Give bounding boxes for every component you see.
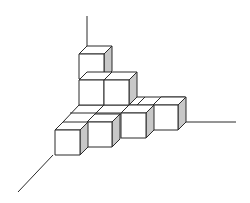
front-row-cube-4 [153,97,186,130]
cube-front-face [79,80,104,105]
cubes [55,46,186,155]
front-row-cube-3 [121,105,154,138]
cube-front-face [121,113,146,138]
cube-front-face [104,80,129,105]
cube-front-face [87,122,112,147]
floor-grid-line [137,97,145,105]
front-row-cube-2 [87,114,120,147]
left-axis [18,155,53,192]
front-row-cube-1 [55,122,88,155]
tower-right-cube [104,72,137,105]
cube-diagram-svg [0,0,250,203]
cube-front-face [153,105,178,130]
cube-front-face [55,130,80,155]
cube-diagram [0,0,250,203]
